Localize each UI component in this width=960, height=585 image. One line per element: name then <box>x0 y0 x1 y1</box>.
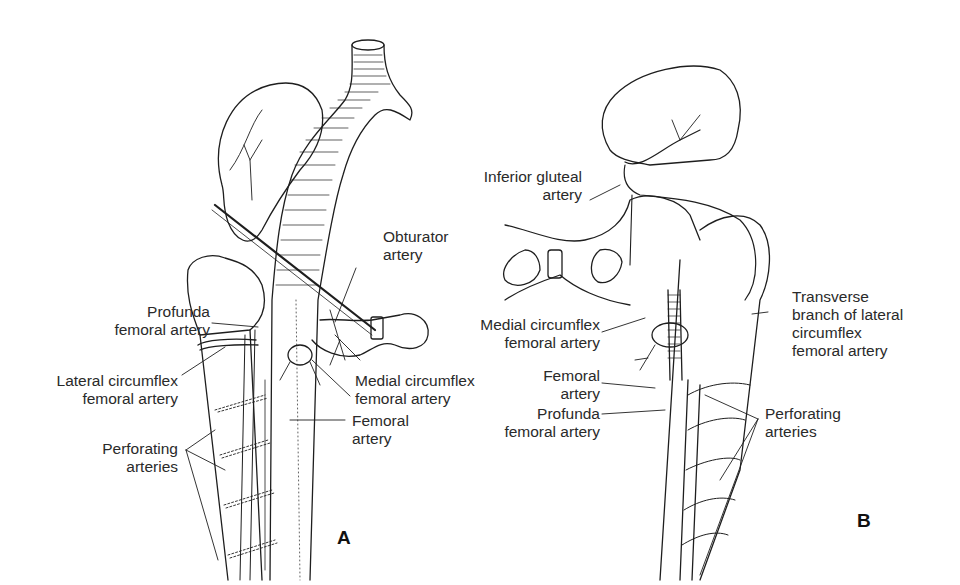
panel-a-drawing <box>182 40 428 580</box>
label-medial-circumflex-femoral-artery-b: Medial circumflex femoral artery <box>440 316 600 352</box>
label-lateral-circumflex-femoral-artery: Lateral circumflex femoral artery <box>30 372 178 408</box>
label-inferior-gluteal-artery: Inferior gluteal artery <box>440 168 582 204</box>
panel-letter-b: B <box>857 510 871 532</box>
label-profunda-femoral-artery-a: Profunda femoral artery <box>60 303 210 339</box>
label-medial-circumflex-femoral-artery-a: Medial circumflex femoral artery <box>355 372 475 408</box>
label-perforating-arteries-b: Perforating arteries <box>765 405 841 441</box>
label-obturator-artery: Obturator artery <box>383 228 448 264</box>
label-perforating-arteries-a: Perforating arteries <box>60 440 178 476</box>
label-femoral-artery-a: Femoral artery <box>352 412 409 448</box>
label-transverse-branch-lateral-circumflex: Transverse branch of lateral circumflex … <box>792 288 903 360</box>
label-profunda-femoral-artery-b: Profunda femoral artery <box>470 405 600 441</box>
label-femoral-artery-b: Femoral artery <box>520 367 600 403</box>
panel-letter-a: A <box>337 527 351 549</box>
